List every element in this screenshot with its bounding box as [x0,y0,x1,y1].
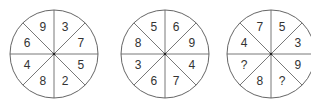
segment-value: 9 [294,58,301,72]
segment-value: 8 [135,36,142,50]
segment-value: 4 [24,58,31,72]
segment-value: 7 [173,74,180,88]
wheel-center-dot [53,53,56,56]
segment-value: 8 [257,74,264,88]
segment-value: 9 [40,20,47,34]
segment-value: 2 [62,74,69,88]
wheel-center-dot [270,53,273,56]
segment-value: 3 [62,20,69,34]
segment-value: 3 [294,36,301,50]
segment-value: 5 [279,20,286,34]
circle-3: 539?8?47 [227,10,311,98]
wheel-center-dot [164,53,167,56]
segment-value: 6 [173,20,180,34]
circle-2: 69476385 [121,10,209,98]
segment-value: 5 [151,20,158,34]
circle-1: 37528469 [10,10,98,98]
segment-value: 6 [24,36,31,50]
segment-value: 7 [257,20,264,34]
segment-value: 3 [135,58,142,72]
segment-value: 4 [241,36,248,50]
segment-value: 4 [188,58,195,72]
segment-value: 5 [77,58,84,72]
segment-value: 6 [151,74,158,88]
number-wheel-puzzle: 37528469 69476385 539?8?47 [0,0,311,107]
segment-value: 8 [40,74,47,88]
unknown-segment-value: ? [241,58,248,72]
unknown-segment-value: ? [279,74,286,88]
segment-value: 9 [188,36,195,50]
segment-value: 7 [77,36,84,50]
